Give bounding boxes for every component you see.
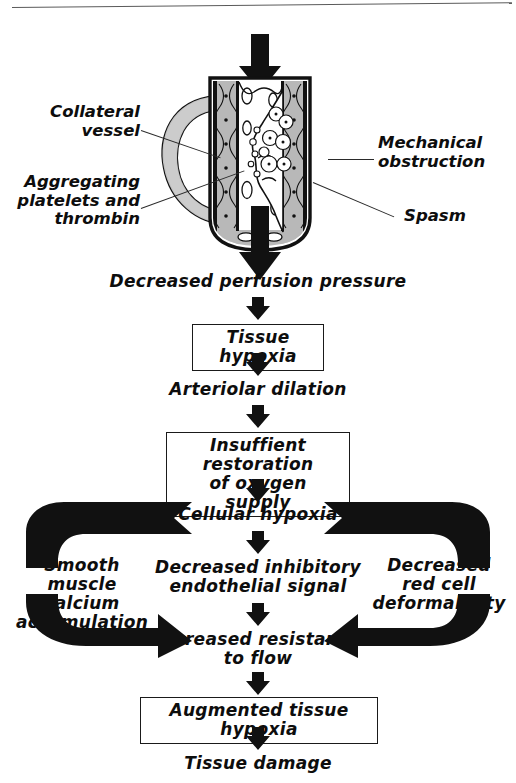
arrow-augmented-hypoxia-to-tissue-damage [245,727,271,751]
figure-panel: Collateral vessel Aggregating platelets … [0,0,516,783]
node-tissue-damage: Tissue damage [158,754,358,773]
arrow-restoration-to-cellular-hypoxia [245,479,271,503]
arrow-dilation-to-insufficient-restoration [245,405,271,429]
leader-mechanical-obstruction [328,159,374,160]
node-arteriolar-dilation: Arteriolar dilation [138,380,378,399]
arrow-endothelial-signal-to-resistance [245,603,271,627]
arrow-perfusion-to-tissue-hypoxia [245,297,271,321]
callout-collateral-vessel: Collateral vessel [14,103,140,140]
callout-aggregating-platelets: Aggregating platelets and thrombin [6,173,140,229]
left-feedback-loop [24,498,194,664]
arrow-tissue-hypoxia-to-arteriolar-dilation [245,353,271,377]
right-feedback-loop [322,498,492,664]
callout-spasm: Spasm [404,207,496,226]
arrow-resistance-to-augmented-hypoxia [245,672,271,696]
arrow-cellular-hypoxia-to-endothelial-signal [245,531,271,555]
header-rule [12,2,512,8]
node-decreased-perfusion-pressure: Decreased perfusion pressure [108,272,408,291]
occluded-artery-illustration [150,18,370,266]
callout-mechanical-obstruction: Mechanical obstruction [378,134,510,171]
